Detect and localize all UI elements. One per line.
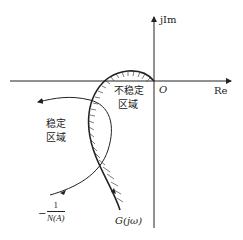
g-jw-label: G(jω) [115,216,142,226]
diagram-graphics [0,0,243,240]
real-axis-label: Re [214,86,227,96]
stable-region-line2: 区域 [46,133,66,143]
diagram-canvas: jIm Re O 不稳定 区域 稳定 区域 − 1 N(A) G(jω) [0,0,243,240]
stable-region-line1: 稳定 [46,119,66,129]
origin-label: O [159,85,167,95]
unstable-region-line1: 不稳定 [114,86,144,96]
na-numerator: 1 [47,200,65,210]
unstable-region-line2: 区域 [118,100,138,110]
imag-axis-label: jIm [160,15,177,25]
na-minus-sign: − [38,209,46,219]
na-fraction-label: 1 N(A) [47,200,65,223]
fraction-bar [47,211,65,212]
na-curve [38,97,111,195]
na-denominator: N(A) [47,213,65,223]
